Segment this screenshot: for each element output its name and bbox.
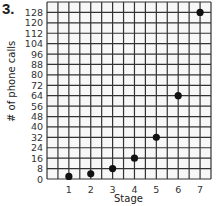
x-tick-label: 5 xyxy=(153,184,159,195)
y-tick-label: 128 xyxy=(25,7,43,18)
data-point xyxy=(131,155,138,162)
plot-area xyxy=(47,2,211,179)
y-tick-label: 112 xyxy=(25,28,43,39)
y-tick-label: 24 xyxy=(31,142,43,153)
y-tick-label: 80 xyxy=(31,69,43,80)
y-tick-label: 32 xyxy=(31,132,43,143)
data-point xyxy=(175,92,182,99)
y-tick-label: 56 xyxy=(31,101,43,112)
data-point xyxy=(109,165,116,172)
y-tick-label: 120 xyxy=(25,17,43,28)
y-tick-label: 48 xyxy=(31,111,43,122)
x-axis-label: Stage xyxy=(114,193,143,204)
data-point xyxy=(87,170,94,177)
y-tick-label: 64 xyxy=(31,90,43,101)
y-tick-label: 96 xyxy=(31,49,43,60)
scatter-chart: 0816243240485664728088961041121201281234… xyxy=(0,0,217,206)
y-axis-label: # of phone calls xyxy=(6,41,17,122)
data-point xyxy=(65,173,72,180)
y-tick-label: 88 xyxy=(31,59,43,70)
y-tick-label: 104 xyxy=(25,38,43,49)
x-tick-label: 6 xyxy=(175,184,181,195)
y-tick-label: 0 xyxy=(37,174,43,185)
x-tick-label: 7 xyxy=(197,184,203,195)
y-tick-label: 72 xyxy=(31,80,43,91)
y-tick-label: 16 xyxy=(31,153,43,164)
x-tick-label: 2 xyxy=(88,184,94,195)
x-tick-label: 1 xyxy=(66,184,72,195)
y-tick-label: 8 xyxy=(37,163,43,174)
data-point xyxy=(196,9,203,16)
y-tick-label: 40 xyxy=(31,121,43,132)
data-point xyxy=(153,134,160,141)
